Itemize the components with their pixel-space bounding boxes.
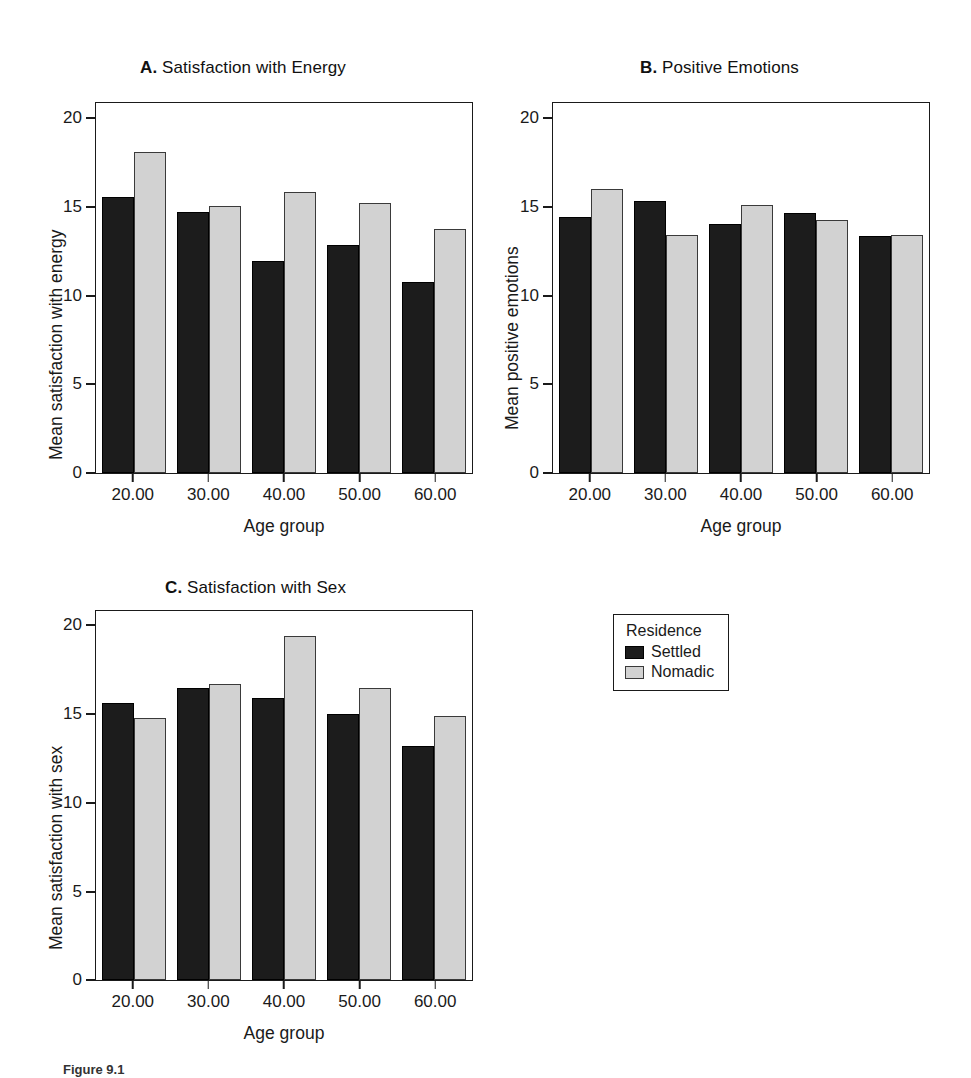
x-tick: 20.00 (112, 474, 155, 505)
x-tick: 30.00 (644, 474, 687, 505)
bar-settled (102, 197, 134, 473)
y-tick: 15 (63, 197, 95, 217)
panel-b-plot-area (552, 102, 930, 474)
y-tick: 10 (520, 286, 552, 306)
y-tick: 20 (520, 108, 552, 128)
panel-b-title: B. Positive Emotions (640, 58, 799, 78)
bar-group (322, 102, 397, 473)
x-tick: 60.00 (414, 981, 457, 1012)
y-tick: 20 (63, 108, 95, 128)
bar-group (854, 102, 929, 473)
x-tick: 50.00 (338, 474, 381, 505)
legend-label-settled: Settled (651, 643, 701, 661)
panel-b-title-text: Positive Emotions (662, 58, 799, 77)
bar-settled (252, 698, 284, 980)
x-tick: 60.00 (871, 474, 914, 505)
bar-nomadic (134, 152, 166, 474)
bar-settled (102, 703, 134, 980)
panel-a-plot-area (95, 102, 473, 474)
bar-group (246, 610, 321, 980)
panel-c-y-axis-label: Mean satisfaction with sex (46, 746, 67, 950)
y-tick: 15 (63, 704, 95, 724)
bar-group (397, 102, 472, 473)
bar-nomadic (434, 229, 466, 473)
bar-nomadic (591, 189, 623, 473)
x-tick: 40.00 (263, 981, 306, 1012)
figure-caption: Figure 9.1 (63, 1062, 124, 1077)
panel-a-title: A. Satisfaction with Energy (140, 58, 346, 78)
x-tick: 30.00 (187, 981, 230, 1012)
bar-nomadic (891, 235, 923, 474)
x-tick: 20.00 (112, 981, 155, 1012)
bar-settled (327, 245, 359, 473)
legend-title: Residence (625, 622, 714, 640)
bar-group (779, 102, 854, 473)
bar-group (96, 610, 171, 980)
bar-nomadic (284, 636, 316, 980)
panel-b-y-axis-label: Mean positive emotions (502, 246, 523, 430)
bar-nomadic (741, 205, 773, 474)
y-tick: 20 (63, 615, 95, 635)
bar-nomadic (359, 688, 391, 981)
x-tick: 20.00 (569, 474, 612, 505)
legend-item-settled[interactable]: Settled (625, 643, 714, 661)
bar-group (96, 102, 171, 473)
bar-settled (709, 224, 741, 473)
bar-nomadic (209, 684, 241, 980)
y-tick: 0 (530, 463, 552, 483)
bar-nomadic (434, 716, 466, 980)
bar-settled (252, 261, 284, 473)
bar-settled (402, 746, 434, 980)
bar-group (553, 102, 628, 473)
x-tick: 50.00 (338, 981, 381, 1012)
y-tick: 5 (73, 882, 95, 902)
bar-settled (859, 236, 891, 473)
x-tick: 60.00 (414, 474, 457, 505)
bar-group (171, 610, 246, 980)
panel-c-title: C. Satisfaction with Sex (165, 578, 346, 598)
bar-group (171, 102, 246, 473)
panel-b-bars (553, 102, 929, 473)
bar-settled (327, 714, 359, 980)
panel-b-letter: B. (640, 58, 657, 77)
y-tick: 15 (520, 197, 552, 217)
bar-settled (177, 212, 209, 474)
settled-swatch-icon (625, 646, 644, 659)
bar-group (628, 102, 703, 473)
y-tick: 10 (63, 286, 95, 306)
bar-nomadic (284, 192, 316, 473)
bar-group (246, 102, 321, 473)
panel-a-y-axis-label: Mean satisfaction with energy (46, 229, 67, 460)
x-tick: 40.00 (263, 474, 306, 505)
bar-settled (784, 213, 816, 473)
x-tick: 30.00 (187, 474, 230, 505)
bar-nomadic (209, 206, 241, 473)
panel-c-title-text: Satisfaction with Sex (187, 578, 346, 597)
legend: Residence Settled Nomadic (613, 614, 729, 691)
bar-settled (634, 201, 666, 473)
x-tick: 50.00 (795, 474, 838, 505)
panel-a-bars (96, 102, 472, 473)
legend-label-nomadic: Nomadic (651, 663, 714, 681)
panel-b-x-axis-label: Age group (552, 516, 930, 537)
bar-settled (402, 282, 434, 473)
panel-c-letter: C. (165, 578, 182, 597)
y-tick: 0 (73, 970, 95, 990)
x-tick: 40.00 (720, 474, 763, 505)
bar-nomadic (134, 718, 166, 981)
y-tick: 5 (530, 374, 552, 394)
bar-settled (559, 217, 591, 473)
y-tick: 10 (63, 793, 95, 813)
bar-nomadic (816, 220, 848, 473)
legend-item-nomadic[interactable]: Nomadic (625, 663, 714, 681)
y-tick: 0 (73, 463, 95, 483)
bar-group (322, 610, 397, 980)
panel-a-letter: A. (140, 58, 157, 77)
panel-c-x-axis-label: Age group (95, 1023, 473, 1044)
nomadic-swatch-icon (625, 666, 644, 679)
panel-a-x-axis-label: Age group (95, 516, 473, 537)
bar-settled (177, 688, 209, 981)
bar-nomadic (666, 235, 698, 474)
bar-group (397, 610, 472, 980)
bar-group (703, 102, 778, 473)
